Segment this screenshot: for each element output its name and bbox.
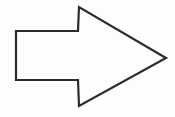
arrow-figure [0, 0, 175, 117]
canvas-background [0, 0, 175, 117]
arrow-canvas [0, 0, 175, 117]
